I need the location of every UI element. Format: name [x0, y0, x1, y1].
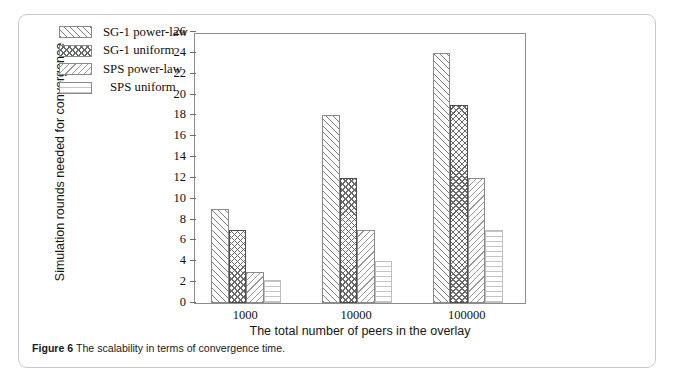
y-tick-label: 18 — [174, 107, 187, 122]
bar — [340, 178, 358, 303]
legend-item: SG-1 power-law — [59, 23, 188, 42]
bar — [264, 280, 282, 303]
bar — [211, 209, 229, 303]
legend-item: SPS power-law — [59, 60, 188, 79]
legend-label: SG-1 power-law — [103, 25, 188, 40]
legend-item: SPS uniform — [59, 79, 188, 98]
legend-label: SG-1 uniform — [103, 43, 174, 58]
figure-caption-label: Figure 6 — [32, 342, 73, 354]
legend-label: SPS uniform — [110, 80, 176, 95]
figure-caption-text: The scalability in terms of convergence … — [76, 342, 285, 354]
x-tick-label: 100000 — [448, 308, 486, 323]
legend-swatch — [59, 82, 92, 94]
bar — [246, 272, 264, 303]
bar — [229, 230, 247, 303]
legend-item: SG-1 uniform — [59, 42, 188, 61]
y-tick-mark — [190, 260, 196, 261]
y-tick-mark — [190, 135, 196, 136]
bar — [485, 230, 503, 303]
y-tick-mark — [190, 302, 196, 303]
y-tick-mark — [190, 219, 196, 220]
bar — [322, 115, 340, 303]
bar-chart: Simulation rounds needed for convergence… — [19, 15, 657, 333]
chart-legend: SG-1 power-lawSG-1 uniformSPS power-lawS… — [59, 23, 188, 97]
legend-label: SPS power-law — [103, 62, 182, 77]
y-tick-label: 14 — [174, 149, 187, 164]
y-tick-label: 12 — [174, 170, 187, 185]
y-tick-mark — [190, 239, 196, 240]
plot-frame: 02468101214161820222426 — [194, 33, 526, 304]
x-axis-title: The total number of peers in the overlay — [194, 324, 526, 338]
x-tick-label: 10000 — [340, 308, 371, 323]
bar — [433, 53, 451, 303]
y-tick-mark — [190, 281, 196, 282]
legend-swatch — [59, 26, 92, 38]
bar — [450, 105, 468, 303]
bar — [468, 178, 486, 303]
y-tick-label: 16 — [174, 128, 187, 143]
y-tick-label: 0 — [180, 295, 186, 310]
figure-caption: Figure 6 The scalability in terms of con… — [32, 341, 642, 355]
legend-swatch — [59, 45, 92, 57]
bar — [357, 230, 375, 303]
y-tick-mark — [190, 114, 196, 115]
legend-swatch — [59, 63, 92, 75]
y-tick-mark — [190, 198, 196, 199]
y-tick-mark — [190, 52, 196, 53]
x-tick-label: 1000 — [233, 308, 258, 323]
bar — [375, 261, 393, 303]
y-tick-label: 4 — [180, 253, 186, 268]
y-tick-label: 10 — [174, 191, 187, 206]
y-tick-mark — [190, 177, 196, 178]
figure-card: Simulation rounds needed for convergence… — [18, 14, 656, 368]
y-tick-mark — [190, 94, 196, 95]
y-tick-mark — [190, 156, 196, 157]
y-tick-label: 8 — [180, 212, 186, 227]
y-tick-label: 6 — [180, 232, 186, 247]
y-tick-mark — [190, 73, 196, 74]
y-tick-mark — [190, 31, 196, 32]
y-tick-label: 2 — [180, 274, 186, 289]
